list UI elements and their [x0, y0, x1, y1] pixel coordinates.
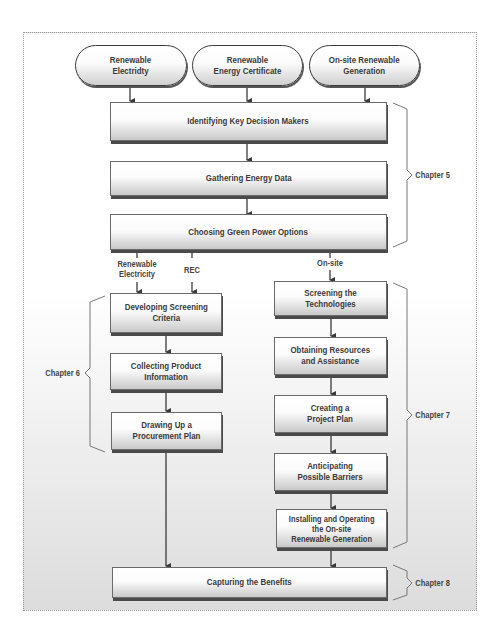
- step-label: Obtaining Resources and Assistance: [291, 345, 371, 367]
- chapter-6-bracket: [85, 296, 105, 452]
- chapter-8-label: Chapter 8: [415, 578, 450, 588]
- chapter-5-label: Chapter 5: [415, 170, 450, 180]
- chapter-8-bracket: [393, 565, 412, 600]
- step-anticipating-barriers: Anticipating Possible Barriers: [274, 453, 387, 491]
- step-identifying-decision-makers: Identifying Key Decision Makers: [110, 102, 387, 141]
- step-label: Developing Screening Criteria: [124, 302, 207, 324]
- branch-label-renewable-electricity: Renewable Electricity: [115, 259, 159, 279]
- chapter-7-bracket: [393, 283, 412, 548]
- chapter-7-label: Chapter 7: [415, 410, 450, 420]
- source-onsite-generation: On-site Renewable Generation: [309, 45, 420, 86]
- source-renewable-electricity: Renewable Electridty: [75, 45, 187, 86]
- chapter-6-label: Chapter 6: [45, 368, 80, 378]
- source-label: Renewable Energy Certificate: [214, 55, 282, 77]
- step-label: Identifying Key Decision Makers: [188, 116, 309, 127]
- step-label: Installing and Operating the On-site Ren…: [289, 514, 375, 544]
- step-label: Gathering Energy Data: [206, 173, 292, 184]
- step-installing-operating: Installing and Operating the On-site Ren…: [276, 509, 387, 548]
- source-label: Renewable Electridty: [110, 55, 151, 77]
- source-label: On-site Renewable Generation: [329, 55, 400, 77]
- step-creating-project-plan: Creating a Project Plan: [274, 395, 387, 433]
- step-choosing-green-power: Choosing Green Power Options: [110, 214, 387, 250]
- step-screening-technologies: Screening the Technologies: [274, 281, 387, 316]
- branch-label-rec: REC: [180, 265, 205, 275]
- step-label: Choosing Green Power Options: [189, 227, 309, 238]
- step-label: Anticipating Possible Barriers: [298, 461, 363, 483]
- step-label: Drawing Up a Procurement Plan: [133, 420, 201, 442]
- step-label: Capturing the Benefits: [207, 577, 292, 588]
- connector-lines: [0, 0, 497, 635]
- step-capturing-benefits: Capturing the Benefits: [112, 567, 387, 598]
- step-procurement-plan: Drawing Up a Procurement Plan: [111, 412, 222, 450]
- step-obtaining-resources: Obtaining Resources and Assistance: [274, 337, 387, 375]
- step-label: Screening the Technologies: [282, 288, 380, 310]
- step-collecting-product-info: Collecting Product Information: [110, 353, 222, 390]
- step-label: Creating a Project Plan: [308, 403, 354, 425]
- step-gathering-energy-data: Gathering Energy Data: [110, 161, 387, 196]
- chapter-5-bracket: [393, 103, 412, 247]
- step-label: Collecting Product Information: [131, 361, 201, 383]
- source-renewable-energy-certificate: Renewable Energy Certificate: [192, 45, 303, 86]
- branch-label-onsite: On-site: [312, 258, 347, 268]
- step-developing-screening-criteria: Developing Screening Criteria: [110, 293, 222, 333]
